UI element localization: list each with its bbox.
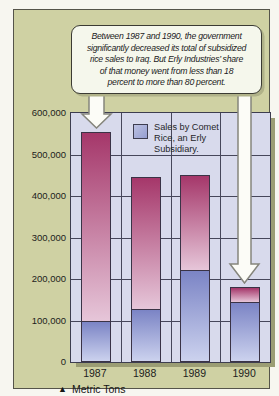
legend-label-line: Rice, an Erly xyxy=(154,133,219,144)
callout-text-line: of that money went from less than 18 xyxy=(76,66,257,78)
bar-1990-segment-other xyxy=(231,288,259,302)
x-axis: 1987198819891990 xyxy=(70,367,269,382)
x-label-1990: 1990 xyxy=(219,367,269,379)
axis-unit-label: Metric Tons xyxy=(72,383,126,395)
callout-text-line: rice sales to Iraq. But Erly Industries’… xyxy=(76,54,257,66)
y-axis: 0100,000200,000300,000400,000500,000600,… xyxy=(20,112,66,361)
bar-1989-segment-comet-rice xyxy=(181,270,209,361)
callout-text-line: significantly decreased its total of sub… xyxy=(76,43,257,55)
callout-box: Between 1987 and 1990, the government si… xyxy=(71,25,262,94)
y-tick-label: 600,000 xyxy=(20,107,66,118)
y-tick-label: 400,000 xyxy=(20,190,66,201)
axis-unit-note: ▲ Metric Tons xyxy=(58,383,125,395)
legend-label-line: Subsidiary. xyxy=(154,144,219,155)
legend: Sales by Comet Rice, an Erly Subsidiary. xyxy=(133,122,219,154)
bar-1987-segment-other xyxy=(82,133,110,321)
legend-label: Sales by Comet Rice, an Erly Subsidiary. xyxy=(154,122,219,154)
bar-1987-segment-comet-rice xyxy=(82,321,110,361)
gridline-vertical xyxy=(121,113,122,362)
triangle-marker-icon: ▲ xyxy=(58,384,67,394)
arrow-down-shape xyxy=(230,95,259,283)
bar-1989-segment-other xyxy=(181,176,209,270)
arrow-down-to-1987-icon xyxy=(80,95,113,129)
x-label-1989: 1989 xyxy=(170,367,220,379)
y-tick-label: 0 xyxy=(20,356,66,367)
x-label-1988: 1988 xyxy=(120,367,170,379)
legend-swatch-comet-rice xyxy=(133,124,148,139)
y-tick-label: 500,000 xyxy=(20,149,66,160)
callout-text-line: Between 1987 and 1990, the government xyxy=(76,31,257,43)
arrow-down-shape xyxy=(82,95,111,128)
y-tick-label: 300,000 xyxy=(20,232,66,243)
bar-1989 xyxy=(180,175,210,362)
bar-1988-segment-other xyxy=(132,178,160,309)
y-tick-label: 100,000 xyxy=(20,315,66,326)
y-tick-label: 200,000 xyxy=(20,273,66,284)
gridline-vertical xyxy=(220,113,221,362)
bar-1988 xyxy=(131,177,161,362)
x-label-1987: 1987 xyxy=(70,367,120,379)
page-background: { "callout": { "text": "Between 1987 and… xyxy=(0,0,279,396)
arrow-down-to-1990-icon xyxy=(228,95,261,284)
bar-1990-segment-comet-rice xyxy=(231,302,259,361)
legend-label-line: Sales by Comet xyxy=(154,122,219,133)
bar-1990 xyxy=(230,287,260,362)
chart-card: 0100,000200,000300,000400,000500,000600,… xyxy=(13,9,270,389)
bar-1988-segment-comet-rice xyxy=(132,309,160,361)
callout-text-line: percent to more than 80 percent. xyxy=(76,77,257,89)
bar-1987 xyxy=(81,132,111,362)
